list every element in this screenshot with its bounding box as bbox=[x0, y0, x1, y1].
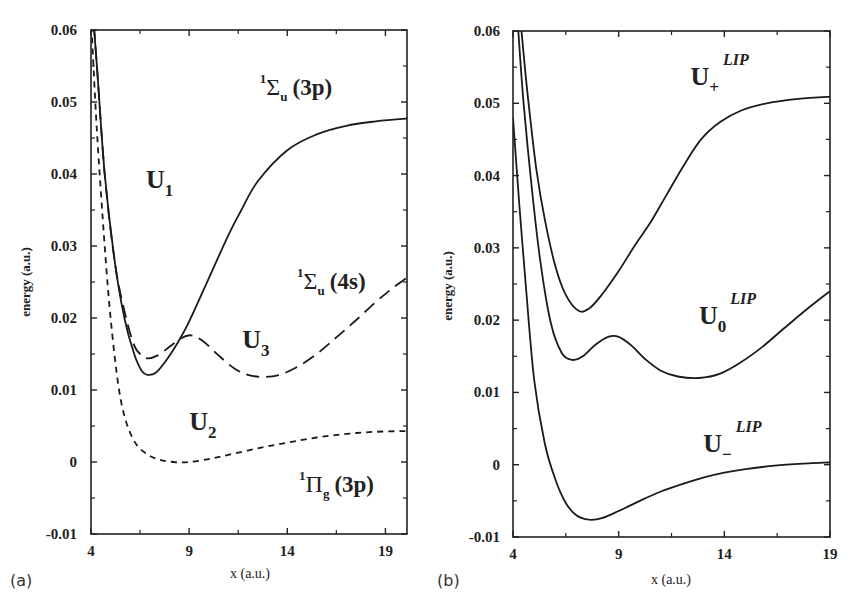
y-tick-label: 0 bbox=[493, 457, 501, 473]
x-tick-label: 14 bbox=[280, 543, 296, 559]
curve-u0lip bbox=[518, 31, 830, 378]
curve-ulip bbox=[513, 118, 830, 520]
x-tick-label: 4 bbox=[87, 543, 95, 559]
y-tick-label: -0.01 bbox=[469, 529, 500, 545]
x-tick-label: 4 bbox=[509, 546, 517, 562]
panel-b-label: (b) bbox=[437, 571, 460, 590]
curve-annotation: 1Σu(4s) bbox=[297, 265, 365, 298]
y-tick-label: 0.03 bbox=[474, 240, 500, 256]
x-tick-label: 19 bbox=[378, 543, 393, 559]
curve-u2 bbox=[91, 16, 407, 463]
curve-u1 bbox=[91, 0, 407, 375]
curve-ulip bbox=[522, 31, 831, 312]
y-tick-label: 0.06 bbox=[51, 22, 78, 38]
x-tick-label: 9 bbox=[615, 546, 623, 562]
panel-a-label: (a) bbox=[10, 571, 32, 590]
x-tick-label: 9 bbox=[185, 543, 193, 559]
curve-annotation: 1Σu(3p) bbox=[260, 71, 332, 104]
y-tick-label: 0.04 bbox=[51, 166, 78, 182]
y-tick-label: 0.04 bbox=[474, 168, 501, 184]
y-tick-label: 0.01 bbox=[51, 382, 77, 398]
y-tick-label: -0.01 bbox=[46, 526, 77, 542]
y-tick-label: 0.05 bbox=[474, 95, 500, 111]
y-tick-label: 0.06 bbox=[474, 23, 501, 39]
y-tick-label: 0.05 bbox=[51, 94, 77, 110]
curve-u3 bbox=[91, 0, 407, 377]
figure: -0.0100.010.020.030.040.050.06491419U11Σ… bbox=[0, 0, 855, 616]
curve-annotation: U3 bbox=[242, 325, 269, 360]
curve-annotation: U+LIP bbox=[691, 51, 749, 97]
x-tick-label: 19 bbox=[823, 546, 838, 562]
curve-annotation: U−LIP bbox=[703, 418, 761, 464]
curve-annotation: 1Πg(3p) bbox=[299, 468, 374, 501]
panel-a-x-axis-title: x (a.u.) bbox=[230, 566, 270, 582]
y-tick-label: 0.01 bbox=[474, 384, 500, 400]
curve-annotation: U0LIP bbox=[699, 290, 756, 336]
panel-b-x-axis-title: x (a.u.) bbox=[651, 572, 691, 588]
panel-a-plot: -0.0100.010.020.030.040.050.06491419U11Σ… bbox=[46, 0, 407, 559]
curve-annotation: U2 bbox=[189, 407, 216, 442]
panel-b-plot: -0.0100.010.020.030.040.050.06491419U+LI… bbox=[469, 23, 838, 562]
x-tick-label: 14 bbox=[717, 546, 733, 562]
y-tick-label: 0.03 bbox=[51, 238, 77, 254]
y-tick-label: 0.02 bbox=[474, 312, 500, 328]
y-tick-label: 0 bbox=[70, 454, 78, 470]
panel-b-y-axis-title: energy (a.u.) bbox=[440, 251, 455, 321]
panel-a-y-axis-title: energy (a.u.) bbox=[18, 247, 33, 317]
y-tick-label: 0.02 bbox=[51, 310, 77, 326]
curve-annotation: U1 bbox=[146, 165, 173, 200]
